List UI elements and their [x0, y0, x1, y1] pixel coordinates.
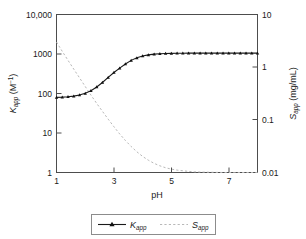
- x-tick-3: 3: [112, 176, 117, 186]
- series-kapp-group: [55, 51, 259, 98]
- legend-sapp-label: Sapp: [192, 220, 209, 232]
- y-right-tick-0.01: 0.01: [262, 168, 279, 178]
- y-right-title-units: (mg/mL): [288, 67, 298, 103]
- chart-svg: 10,000 1000 100 10 1 10 1 0.1 0.01 1 3 5…: [0, 0, 306, 239]
- kapp-line: [57, 53, 258, 97]
- y-right-tick-1: 1: [262, 62, 267, 72]
- figure-container: 10,000 1000 100 10 1 10 1 0.1 0.01 1 3 5…: [0, 0, 306, 239]
- y-left-axis-title: Kapp (M−1): [7, 74, 20, 114]
- y-left-tick-1: 1: [47, 168, 52, 178]
- y-right-tick-10: 10: [262, 10, 272, 20]
- x-axis-title: pH: [151, 190, 163, 200]
- legend-kapp-label: Kapp: [130, 220, 147, 232]
- y-left-title-units-open: (M: [8, 84, 18, 97]
- legend: Kapp Sapp: [92, 215, 216, 235]
- y-right-axis-title: Sapp (mg/mL): [288, 67, 300, 120]
- svg-text:Sapp (mg/mL): Sapp (mg/mL): [288, 67, 300, 120]
- left-axis-ticks: [57, 15, 62, 173]
- y-right-title-sub: app: [292, 103, 300, 114]
- y-right-tick-0.1: 0.1: [262, 115, 274, 125]
- series-sapp-group: [57, 42, 258, 172]
- x-tick-7: 7: [227, 176, 232, 186]
- y-left-title-sub: app: [12, 96, 20, 107]
- x-tick-1: 1: [54, 176, 59, 186]
- y-left-title-units-close: ): [8, 74, 18, 77]
- y-left-tick-1000: 1000: [33, 49, 52, 59]
- y-left-tick-10: 10: [43, 128, 53, 138]
- x-tick-5: 5: [169, 176, 174, 186]
- sapp-line: [57, 42, 258, 172]
- y-left-tick-100: 100: [38, 89, 52, 99]
- right-axis-ticks: [253, 15, 258, 173]
- svg-text:Kapp (M−1): Kapp (M−1): [7, 74, 20, 114]
- plot-frame: [57, 15, 258, 173]
- y-left-tick-10000: 10,000: [26, 10, 52, 20]
- kapp-markers: [55, 51, 259, 98]
